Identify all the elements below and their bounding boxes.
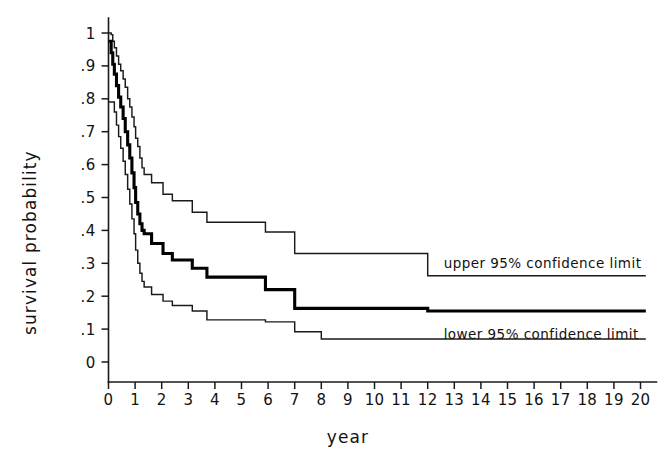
x-tick-label: 3: [183, 391, 193, 409]
x-tick-label: 7: [290, 391, 300, 409]
y-tick-label: 0: [86, 354, 96, 372]
x-tick-label: 17: [551, 391, 571, 409]
x-tick-label: 15: [498, 391, 518, 409]
y-tick-label: .5: [81, 189, 96, 207]
x-tick-label: 11: [391, 391, 411, 409]
x-tick-label: 9: [343, 391, 353, 409]
y-tick-label: .1: [81, 321, 96, 339]
y-tick-label: .3: [81, 255, 96, 273]
x-tick-label: 13: [444, 391, 464, 409]
y-tick-label: .9: [81, 57, 96, 75]
y-tick-label: .8: [81, 90, 96, 108]
y-axis-title: survival probability: [20, 150, 40, 335]
x-axis-title: year: [327, 427, 369, 447]
x-axis-tick-labels: 01234567891011121314151617181920: [104, 391, 651, 409]
x-tick-label: 4: [210, 391, 220, 409]
x-tick-label: 18: [577, 391, 597, 409]
y-axis-tick-labels: 0.1.2.3.4.5.6.7.8.91: [81, 25, 96, 372]
curve-annotation-label: upper 95% confidence limit: [444, 255, 642, 271]
upper-confidence-curve: [109, 33, 646, 276]
x-tick-label: 6: [263, 391, 273, 409]
y-tick-label: .7: [81, 123, 96, 141]
x-tick-label: 5: [237, 391, 247, 409]
x-tick-label: 14: [471, 391, 491, 409]
survival-curve-figure: 0.1.2.3.4.5.6.7.8.91 0123456789101112131…: [0, 0, 671, 467]
y-tick-label: .6: [81, 156, 96, 174]
x-tick-label: 1: [130, 391, 140, 409]
lower-confidence-curve: [109, 102, 646, 339]
curve-annotations: upper 95% confidence limitlower 95% conf…: [444, 255, 642, 342]
y-tick-label: .4: [81, 222, 96, 240]
y-tick-label: .2: [81, 288, 96, 306]
survival-curves: [109, 33, 646, 339]
chart-canvas: 0.1.2.3.4.5.6.7.8.91 0123456789101112131…: [0, 0, 671, 467]
y-tick-label: 1: [86, 25, 96, 43]
x-tick-label: 10: [365, 391, 385, 409]
curve-annotation-label: lower 95% confidence limit: [444, 326, 639, 342]
x-tick-label: 8: [316, 391, 326, 409]
x-tick-label: 16: [524, 391, 544, 409]
x-tick-label: 12: [418, 391, 438, 409]
x-tick-label: 20: [631, 391, 651, 409]
x-tick-label: 2: [157, 391, 167, 409]
x-tick-label: 0: [104, 391, 114, 409]
x-tick-label: 19: [604, 391, 624, 409]
